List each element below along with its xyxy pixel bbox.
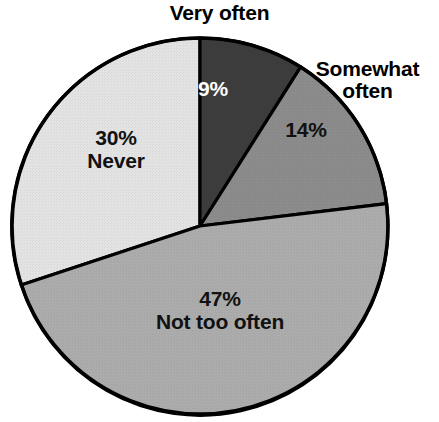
slice-value-very-often: 9% [178,78,248,101]
slice-value-never: 30% Never [58,127,174,172]
slice-value-somewhat-often: 14% [265,119,347,142]
slice-value-not-too-often: 47% Not too often [118,288,322,333]
pie-chart: Very often Somewhat often 9% 14% 30% Nev… [0,0,439,422]
callout-label-somewhat-often: Somewhat often [296,58,439,102]
callout-label-very-often: Very often [0,2,439,24]
